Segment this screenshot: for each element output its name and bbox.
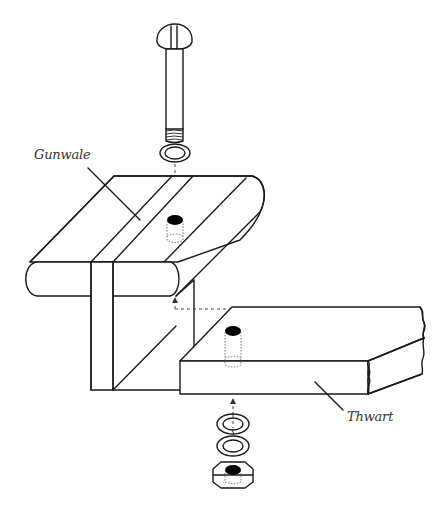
top-washer xyxy=(160,144,190,162)
gunwale-label: Gunwale xyxy=(34,147,90,162)
gunwale-thwart-assembly-diagram xyxy=(0,0,445,519)
thwart-label: Thwart xyxy=(347,409,393,424)
lock-washer xyxy=(217,414,249,434)
thwart xyxy=(180,307,425,394)
hex-nut xyxy=(213,462,253,488)
arrow-icon xyxy=(230,398,236,404)
arrow-icon xyxy=(172,297,178,303)
bottom-washer xyxy=(217,436,249,456)
bolt xyxy=(157,24,192,143)
